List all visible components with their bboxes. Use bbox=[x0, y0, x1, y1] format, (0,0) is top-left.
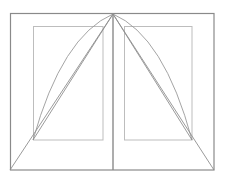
arch-drawing-svg bbox=[0, 0, 226, 182]
diagram-canvas bbox=[0, 0, 226, 182]
